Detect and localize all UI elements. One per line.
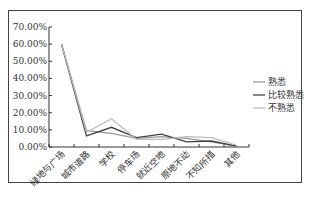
x-category-label: 其他 [221, 149, 242, 170]
legend-label: 比较熟悉 [268, 89, 304, 100]
legend-item: 比较熟悉 [253, 89, 304, 100]
x-axis: 绿地与广场城市道路学校停车场就近空地原地不动不知所措其他 [27, 144, 249, 188]
legend-label: 不熟悉 [268, 102, 295, 113]
series-lines [62, 44, 237, 146]
y-tick-label: 0.00% [18, 142, 47, 152]
x-category-label: 绿地与广场 [27, 149, 67, 189]
legend-label: 熟悉 [268, 76, 286, 87]
legend-item: 熟悉 [253, 76, 286, 87]
legend: 熟悉比较熟悉不熟悉 [253, 76, 304, 113]
y-tick-label: 50.00% [13, 56, 48, 66]
y-tick-label: 10.00% [13, 125, 48, 135]
line-chart: 0.00%10.00%20.00%30.00%40.00%50.00%60.00… [0, 0, 310, 203]
x-category-label: 学校 [96, 149, 117, 170]
y-axis: 0.00%10.00%20.00%30.00%40.00%50.00%60.00… [13, 22, 52, 152]
y-tick-label: 20.00% [13, 108, 48, 118]
series-line-0 [62, 44, 237, 146]
y-tick-label: 40.00% [13, 73, 48, 83]
y-tick-label: 70.00% [13, 22, 48, 32]
y-tick-label: 30.00% [13, 91, 48, 101]
legend-item: 不熟悉 [253, 102, 295, 113]
y-tick-label: 60.00% [13, 39, 48, 49]
series-line-2 [62, 44, 237, 145]
